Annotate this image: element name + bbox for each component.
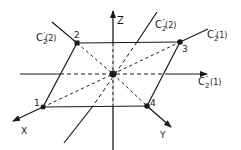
c2pp2-line-bottom <box>64 106 93 143</box>
diag-1-center <box>43 74 113 107</box>
diagram-canvas: Z X Y <box>0 0 241 150</box>
vertex-4 <box>144 103 150 109</box>
edge-1-2 <box>43 43 77 107</box>
c2p1-label: C2′(1) <box>207 28 227 43</box>
svg-text:C2′(2): C2′(2) <box>36 31 56 46</box>
c2pp2-line-top <box>137 12 157 42</box>
x-axis-label: X <box>21 126 27 136</box>
svg-text:C2′(1): C2′(1) <box>207 28 227 43</box>
y-axis <box>147 106 171 127</box>
y-axis-label: Y <box>159 130 166 140</box>
c2p1-line <box>180 29 208 42</box>
center-point <box>110 71 117 78</box>
edge-2-3 <box>77 42 180 43</box>
c2pp2-label: C2″(2) <box>155 18 176 33</box>
vertex-1 <box>41 105 46 110</box>
c2-symmetry-diagram: Z X Y <box>0 0 241 150</box>
diag-center-3 <box>113 42 180 74</box>
svg-text:C2″(2): C2″(2) <box>155 18 176 33</box>
edge-1-4 <box>43 106 147 107</box>
vertex-3-label: 3 <box>182 44 188 54</box>
svg-text:C2″(1): C2″(1) <box>198 75 221 90</box>
vertex-1-label: 1 <box>34 98 40 108</box>
z-axis-label: Z <box>117 15 124 26</box>
vertex-4-label: 4 <box>150 98 156 108</box>
x-axis <box>13 107 43 121</box>
diag-center-4 <box>113 74 147 106</box>
vertex-2 <box>75 41 80 46</box>
c2pp1-label: C2″(1) <box>198 75 221 90</box>
vertex-2-label: 2 <box>74 30 80 40</box>
diag-2-center <box>77 43 113 74</box>
c2p2-label: C2′(2) <box>36 31 56 46</box>
